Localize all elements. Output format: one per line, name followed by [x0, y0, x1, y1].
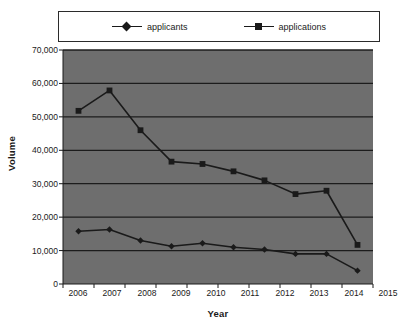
- diamond-marker-icon: [112, 22, 142, 32]
- data-point-marker: [293, 191, 299, 197]
- x-axis-tickmarks: [63, 284, 373, 288]
- legend-entry-applications: applications: [244, 22, 327, 32]
- data-point-marker: [200, 161, 206, 167]
- legend-label: applications: [279, 22, 327, 32]
- data-point-marker: [355, 242, 361, 248]
- square-marker-icon: [244, 22, 274, 32]
- legend-label: applicants: [147, 22, 188, 32]
- chart-legend: applicants applications: [58, 11, 380, 42]
- data-point-marker: [169, 159, 175, 165]
- data-point-marker: [76, 108, 82, 114]
- data-point-marker: [107, 88, 113, 94]
- data-point-marker: [324, 188, 330, 194]
- data-point-marker: [138, 127, 144, 133]
- data-point-marker: [231, 168, 237, 174]
- data-point-marker: [262, 177, 268, 183]
- y-axis-tickmarks: [59, 50, 63, 284]
- legend-entry-applicants: applicants: [112, 22, 188, 32]
